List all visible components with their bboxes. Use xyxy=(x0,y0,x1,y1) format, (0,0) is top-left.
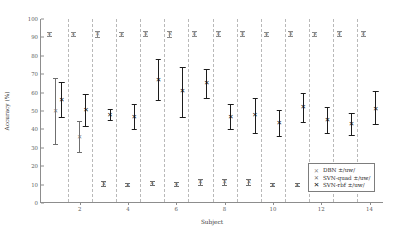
marker-x-icon: ✕ xyxy=(361,31,366,37)
data-point-rbf: ✕ xyxy=(276,110,283,136)
marker-x-icon: ✕ xyxy=(270,181,275,187)
y-tick-mark xyxy=(41,19,44,20)
legend-marker-svn-rbf-icon: ✕ xyxy=(312,181,321,189)
error-bar-cap-lower xyxy=(301,122,307,123)
y-tick-mark xyxy=(41,203,44,204)
data-point-dbn: ✕ xyxy=(311,32,318,36)
error-bar-cap-lower xyxy=(349,135,355,136)
error-bar-cap-upper xyxy=(77,121,82,122)
marker-x-icon: ✕ xyxy=(47,31,52,37)
marker-x-icon: ✕ xyxy=(246,179,251,185)
x-tick-mark xyxy=(128,202,129,205)
error-bar-cap-upper xyxy=(301,93,307,94)
data-point-dbn: ✕ xyxy=(142,31,149,36)
y-tick-mark xyxy=(41,37,44,38)
data-point-dbn: ✕ xyxy=(166,31,173,37)
legend-marker-dbn-icon: ✕ xyxy=(312,167,321,174)
error-bar-cap-upper xyxy=(156,59,162,60)
marker-x-icon: ✕ xyxy=(167,31,172,37)
marker-x-icon: ✕ xyxy=(294,181,299,187)
y-tick-mark xyxy=(41,147,44,148)
marker-x-icon: ✕ xyxy=(192,31,197,37)
group-separator-line xyxy=(285,19,286,202)
y-tick-label: 100 xyxy=(28,16,41,22)
y-tick-label: 40 xyxy=(31,126,41,132)
y-tick-mark xyxy=(41,184,44,185)
error-bar-cap-lower xyxy=(107,120,113,121)
data-point-rbf: ✕ xyxy=(324,107,331,133)
data-point-dbn: ✕ xyxy=(239,31,246,36)
data-point-rbf: ✕ xyxy=(107,109,114,120)
data-point-quad: ✕ xyxy=(124,183,131,186)
error-bar-cap-lower xyxy=(180,117,186,118)
marker-x-icon: ✕ xyxy=(373,106,379,113)
legend: ✕ DBN ±/uw/ ✕ SVN-quad ±/uw/ ✕ SVN-rbf ±… xyxy=(308,163,375,191)
y-tick-mark xyxy=(41,92,44,93)
data-point-dbn: ✕ xyxy=(70,32,77,36)
data-point-rbf: ✕ xyxy=(131,104,138,130)
data-point-quad: ✕ xyxy=(149,181,156,185)
marker-x-icon: ✕ xyxy=(276,120,282,127)
x-tick-mark xyxy=(225,202,226,205)
data-point-rbf: ✕ xyxy=(179,67,186,117)
data-point-dbn: ✕ xyxy=(118,32,125,36)
marker-x-icon: ✕ xyxy=(198,179,203,185)
legend-item: ✕ DBN ±/uw/ xyxy=(312,166,370,173)
group-separator-line xyxy=(68,19,69,202)
marker-x-icon: ✕ xyxy=(228,113,234,120)
error-bar-cap-lower xyxy=(204,98,210,99)
legend-item: ✕ SVN-rbf ±/uw/ xyxy=(312,181,370,188)
data-point-rbf: ✕ xyxy=(58,82,65,117)
error-bar-cap-upper xyxy=(204,69,210,70)
marker-x-icon: ✕ xyxy=(174,181,179,187)
x-tick-mark xyxy=(273,202,274,205)
error-bar-cap-upper xyxy=(131,104,137,105)
y-tick-label: 90 xyxy=(31,34,41,40)
y-tick-mark xyxy=(41,129,44,130)
marker-x-icon: ✕ xyxy=(77,134,82,140)
data-point-dbn: ✕ xyxy=(191,31,198,36)
error-bar-cap-lower xyxy=(156,100,162,101)
marker-x-icon: ✕ xyxy=(301,104,307,111)
data-point-quad: ✕ xyxy=(245,179,252,185)
marker-x-icon: ✕ xyxy=(216,31,221,37)
marker-x-icon: ✕ xyxy=(71,31,76,37)
y-tick-label: 20 xyxy=(31,163,41,169)
data-point-rbf: ✕ xyxy=(372,91,379,124)
error-bar-cap-upper xyxy=(276,110,282,111)
marker-x-icon: ✕ xyxy=(349,121,355,128)
y-tick-mark xyxy=(41,74,44,75)
group-separator-line xyxy=(92,19,93,202)
error-bar-cap-lower xyxy=(252,133,258,134)
error-bar-cap-lower xyxy=(325,133,331,134)
marker-x-icon: ✕ xyxy=(101,181,106,187)
marker-x-icon: ✕ xyxy=(59,97,65,104)
error-bar-cap-upper xyxy=(59,82,65,83)
error-bar-cap-upper xyxy=(373,91,379,92)
error-bar-cap-upper xyxy=(180,67,186,68)
marker-x-icon: ✕ xyxy=(131,113,137,120)
y-tick-mark xyxy=(41,111,44,112)
x-tick-mark xyxy=(370,202,371,205)
error-bar-cap-lower xyxy=(53,144,58,145)
data-point-rbf: ✕ xyxy=(82,94,89,126)
group-separator-line xyxy=(116,19,117,202)
error-bar-cap-lower xyxy=(83,126,89,127)
y-tick-label: 50 xyxy=(31,108,41,114)
data-point-dbn: ✕ xyxy=(263,32,270,36)
error-bar-cap-upper xyxy=(349,113,355,114)
x-tick-mark xyxy=(80,202,81,205)
error-bar-cap-upper xyxy=(53,78,58,79)
error-bar-cap-lower xyxy=(276,136,282,137)
marker-x-icon: ✕ xyxy=(119,31,124,37)
group-separator-line xyxy=(237,19,238,202)
error-bar-cap-upper xyxy=(228,104,234,105)
data-point-quad: ✕ xyxy=(76,121,83,152)
y-tick-label: 60 xyxy=(31,90,41,96)
marker-x-icon: ✕ xyxy=(150,180,155,186)
error-bar-cap-lower xyxy=(373,124,379,125)
data-point-quad: ✕ xyxy=(269,183,276,186)
figure: Accuracy (%) Subject 0102030405060708090… xyxy=(0,0,408,236)
marker-x-icon: ✕ xyxy=(240,31,245,37)
group-separator-line xyxy=(261,19,262,202)
